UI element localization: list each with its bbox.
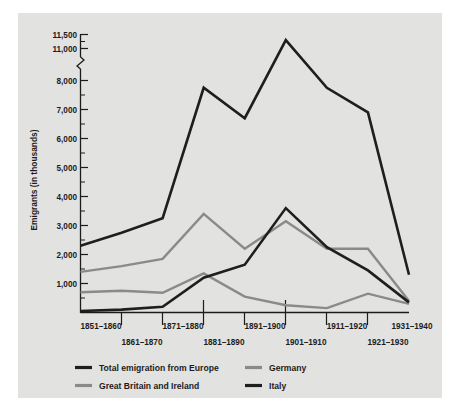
x-tick-label: 1881–1890 [204, 338, 245, 347]
x-tick-label: 1851–1860 [81, 322, 122, 331]
y-tick-label: 11,000 [52, 45, 77, 54]
series-lines [81, 40, 410, 311]
x-tick-label: 1891–1900 [245, 322, 286, 331]
series-line-great-britain-and-ireland [81, 214, 410, 301]
y-axis-break-zigzag [77, 57, 84, 69]
y-tick-label: 5,000 [57, 164, 78, 173]
y-tick-label: 6,000 [57, 135, 78, 144]
y-tick-label: 8,000 [57, 77, 78, 86]
x-tick-label: 1921–1930 [368, 338, 409, 347]
x-tick-label: 1871–1880 [163, 322, 204, 331]
x-tick-label: 1901–1910 [286, 338, 327, 347]
chart-legend: Total emigration from Europe Germany Gre… [75, 363, 306, 391]
line-chart: Emigrants (in thousands) [0, 0, 454, 417]
y-tick-label: 4,000 [57, 193, 78, 202]
x-tick-labels-top-row: 1851–1860 1871–1880 1891–1900 1911–1920 … [81, 322, 433, 331]
legend-label-italy: Italy [269, 381, 286, 391]
y-tick-label: 1,000 [57, 280, 78, 289]
y-tick-label: 7,000 [57, 106, 78, 115]
x-tick-label: 1861–1870 [122, 338, 163, 347]
x-tick-labels-bottom-row: 1861–1870 1881–1890 1901–1910 1921–1930 [122, 338, 409, 347]
x-tick-label: 1911–1920 [327, 322, 368, 331]
legend-label-total-emigration: Total emigration from Europe [99, 363, 219, 373]
series-line-germany [81, 273, 410, 308]
x-tick-label: 1931–1940 [392, 322, 433, 331]
series-line-total-emigration [81, 40, 410, 275]
legend-label-germany: Germany [269, 363, 306, 373]
y-axis-title: Emigrants (in thousands) [29, 129, 39, 230]
figure-root: Emigrants (in thousands) [0, 0, 454, 417]
y-tick-label: 3,000 [57, 222, 78, 231]
y-tick-label: 11,500 [52, 31, 77, 40]
legend-label-great-britain-and-ireland: Great Britain and Ireland [99, 381, 199, 391]
y-tick-labels: 11,500 11,000 8,000 7,000 6,000 5,000 4,… [52, 31, 77, 289]
y-tick-label: 2,000 [57, 251, 78, 260]
